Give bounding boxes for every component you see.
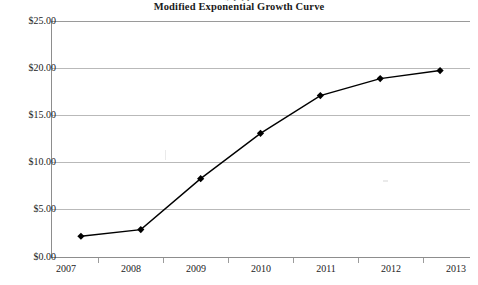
x-tick-label-2007: 2007 xyxy=(36,263,96,274)
chart-container: y p , p Modified Exponential Growth Curv… xyxy=(0,0,478,285)
y-tick-label-5: $5.00 xyxy=(10,203,56,214)
x-tick-label-2013: 2013 xyxy=(426,263,478,274)
x-tick-label-2009: 2009 xyxy=(166,263,226,274)
x-tick-5 xyxy=(358,258,359,263)
x-tick-1 xyxy=(98,258,99,263)
y-tick-label-0: $0.00 xyxy=(10,251,56,262)
x-tick-2 xyxy=(163,258,164,263)
x-tick-label-2012: 2012 xyxy=(361,263,421,274)
gridline-15 xyxy=(51,115,470,116)
y-tick-label-10: $10.00 xyxy=(10,156,56,167)
x-tick-4 xyxy=(293,258,294,263)
scan-artifact-1 xyxy=(165,150,166,160)
scan-artifact-2 xyxy=(383,180,388,182)
gridline-10 xyxy=(51,162,470,163)
x-tick-label-2008: 2008 xyxy=(101,263,161,274)
gridline-25 xyxy=(51,21,470,22)
chart-title: Modified Exponential Growth Curve xyxy=(0,1,478,12)
gridline-5 xyxy=(51,209,470,210)
x-tick-label-2010: 2010 xyxy=(231,263,291,274)
plot-area xyxy=(51,21,470,257)
x-tick-6 xyxy=(423,258,424,263)
gridline-20 xyxy=(51,68,470,69)
x-tick-label-2011: 2011 xyxy=(296,263,356,274)
y-tick-label-15: $15.00 xyxy=(10,109,56,120)
gridline-0 xyxy=(51,257,470,258)
y-tick-label-20: $20.00 xyxy=(10,62,56,73)
y-tick-label-25: $25.00 xyxy=(10,15,56,26)
x-tick-3 xyxy=(228,258,229,263)
